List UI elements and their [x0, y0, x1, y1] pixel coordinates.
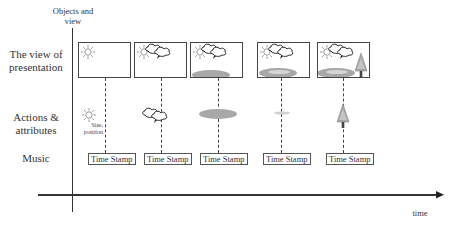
time-stamp-2: Time Stamp — [144, 153, 192, 165]
presentation-frame-3 — [190, 42, 243, 78]
time-stamp-4: Time Stamp — [263, 153, 311, 165]
ground-action-icon — [198, 106, 248, 122]
time-stamp-3: Time Stamp — [200, 153, 248, 165]
clouds-action-icon — [143, 108, 173, 128]
vertical-axis-label-line2: view — [38, 16, 108, 26]
row-label-line: presentation — [4, 61, 68, 74]
row-label-line: Music — [4, 152, 68, 165]
row-label-line: attributes — [4, 124, 68, 137]
size-position-annotation: Size, position — [76, 122, 103, 136]
vertical-axis-label: Objects and view — [38, 6, 108, 26]
vertical-axis-label-line1: Objects and — [38, 6, 108, 16]
presentation-frame-4 — [257, 42, 310, 78]
vertical-axis — [72, 28, 73, 212]
time-stamp-5: Time Stamp — [326, 153, 374, 165]
row-label-line: The view of — [4, 48, 68, 61]
time-axis — [38, 194, 438, 196]
ground-icon — [191, 43, 243, 78]
lake-action-icon — [270, 108, 310, 118]
presentation-frame-1 — [78, 42, 131, 78]
row-label-line: Actions & — [4, 111, 68, 124]
sun-icon — [79, 43, 131, 78]
row-label-presentation: The view of presentation — [4, 48, 68, 74]
row-label-actions: Actions & attributes — [4, 111, 68, 137]
tree-icon — [318, 43, 370, 78]
presentation-frame-5 — [317, 42, 370, 78]
clouds-icon — [135, 43, 187, 78]
row-label-music: Music — [4, 152, 68, 165]
time-stamp-1: Time Stamp — [88, 153, 136, 165]
annotation-line: Size, — [76, 122, 103, 129]
lake-icon — [258, 43, 310, 78]
tree-action-icon — [333, 100, 353, 136]
time-axis-label: time — [405, 208, 435, 218]
presentation-frame-2 — [134, 42, 187, 78]
arrowhead-icon — [436, 190, 446, 200]
annotation-line: position — [76, 129, 103, 136]
